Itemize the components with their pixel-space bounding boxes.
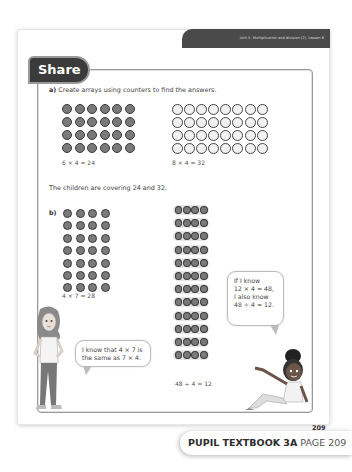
counter-icon [175,298,183,306]
counter-icon [175,312,183,320]
counter-icon [62,143,72,153]
counter-icon [101,271,110,280]
speech-bubble-tail-icon [83,366,92,375]
counter-icon [183,259,191,267]
counter-icon [175,338,183,346]
counter-icon [172,104,183,115]
counter-icon [184,130,195,141]
counter-icon [191,338,199,346]
counter-icon [232,117,243,128]
counter-icon [75,143,85,153]
counter-icon [101,283,110,292]
counter-icon [112,104,122,114]
counter-icon [63,209,72,218]
counter-icon [88,234,97,243]
unit-header: Unit 5: Multiplication and division (2),… [182,29,330,48]
counter-icon [87,104,97,114]
counter-icon [257,117,268,128]
counter-icon [175,232,183,240]
counter-icon [220,143,231,154]
counter-icon [100,143,110,153]
counter-icon [191,259,199,267]
counter-icon [191,246,199,254]
counter-icon [175,219,183,227]
counter-icon [220,130,231,141]
equation-a-right: 8 × 4 = 32 [172,159,205,166]
counter-strip [173,231,209,241]
part-a-instruction-row: a) Create arrays using counters to find … [49,86,216,94]
counter-icon [76,234,85,243]
counter-icon [208,130,219,141]
counter-icon [184,143,195,154]
counter-icon [175,246,183,254]
counter-icon [208,104,219,115]
counter-icon [175,272,183,280]
counter-icon [63,221,72,230]
counter-strip [173,337,209,347]
counter-icon [183,232,191,240]
counter-icon [76,246,85,255]
girl-standing-icon [28,305,70,413]
counter-icon [196,117,207,128]
counter-icon [200,312,208,320]
counter-icon [183,298,191,306]
counter-icon [183,338,191,346]
girl-sitting-pointing-icon [243,346,323,412]
counter-icon [257,143,268,154]
counter-strip [173,271,209,281]
counter-array-4x7 [63,209,110,292]
counter-icon [101,221,110,230]
counter-icon [191,351,199,359]
counter-icon [191,272,199,280]
counter-icon [76,209,85,218]
counter-icon [75,130,85,140]
counter-icon [63,246,72,255]
counter-strip [173,297,209,307]
counter-icon [101,259,110,268]
counter-icon [200,246,208,254]
counter-strip [173,311,209,321]
counter-icon [200,272,208,280]
speech-bubble-tail-icon [270,325,279,335]
counter-icon [245,104,256,115]
counter-icon [191,298,199,306]
footer-page: PAGE 209 [300,437,346,448]
counter-strip [173,245,209,255]
counter-icon [76,283,85,292]
counter-icon [88,259,97,268]
equation-a-left: 6 × 4 = 24 [62,159,95,166]
counter-icon [191,312,199,320]
counter-icon [200,206,208,214]
counter-icon [245,130,256,141]
counter-strip [173,284,209,294]
part-b-label: b) [49,209,57,217]
counter-icon [196,130,207,141]
counter-icon [62,117,72,127]
counter-icon [200,219,208,227]
counter-strip [173,350,209,360]
counter-icon [88,209,97,218]
counter-icon [191,206,199,214]
counter-icon [175,325,183,333]
footer-book-title: PUPIL TEXTBOOK 3A [188,437,297,448]
counter-icon [183,325,191,333]
counter-icon [196,104,207,115]
counter-icon [183,312,191,320]
counter-icon [183,351,191,359]
counter-strip [173,205,209,215]
counter-icon [183,219,191,227]
counter-icon [191,325,199,333]
counter-icon [100,117,110,127]
counter-icon [183,246,191,254]
counter-icon [76,271,85,280]
counter-icon [183,272,191,280]
counter-icon [200,232,208,240]
counter-icon [183,285,191,293]
counter-icon [200,338,208,346]
counter-icon [257,130,268,141]
counter-icon [172,143,183,154]
counter-icon [112,143,122,153]
counter-icon [232,143,243,154]
counter-icon [232,130,243,141]
counter-icon [87,143,97,153]
